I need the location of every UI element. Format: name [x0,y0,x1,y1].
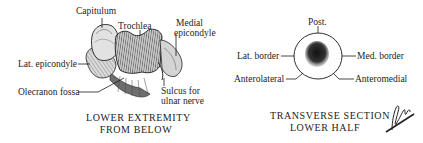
label-medial-epicondyle-line2: epicondyle [174,28,216,38]
caption-right-line1: TRANSVERSE SECTION [270,110,380,122]
label-lat-border: Lat. border [237,51,279,61]
label-med-border: Med. border [357,51,404,61]
caption-right-line2: LOWER HALF [270,122,380,134]
marrow-cavity [305,41,329,67]
leader-anteromedial [333,73,354,79]
label-sulcus-line1: Sulcus for [161,86,200,96]
label-anterolateral: Anterolateral [234,74,284,84]
label-olecranon-fossa: Olecranon fossa [18,87,79,97]
label-sulcus-line2: ulnar nerve [161,96,204,106]
olecranon-region [110,72,150,97]
medial-epicondyle-shape [160,40,182,77]
transverse-section [294,33,342,79]
capitulum-shape [91,24,118,60]
label-trochlea: Trochlea [118,21,151,31]
label-medial-epicondyle-line1: Medial [176,18,203,28]
caption-left-line2: FROM BELOW [86,124,186,136]
trochlea-shape [115,29,162,73]
caption-left-line1: LOWER EXTREMITY [86,112,186,124]
label-lat-epicondyle: Lat. epicondyle [18,59,77,69]
artist-signature [386,106,414,132]
label-post: Post. [308,17,327,27]
label-capitulum: Capitulum [76,6,116,16]
leader-anterolateral [286,73,303,79]
label-anteromedial: Anteromedial [355,74,407,84]
